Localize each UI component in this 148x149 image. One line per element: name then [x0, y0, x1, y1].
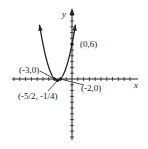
y-axis-label: y [61, 9, 66, 19]
point-label-vertex: (-5/2, -1/4) [18, 91, 58, 101]
point-label-neg2-0: (-2,0) [81, 83, 101, 93]
point-label-neg3-0: (-3,0) [19, 65, 39, 75]
axis-arrows [38, 8, 77, 31]
parabola-graph: x y (0,6) (-3,0) (-2,0) (-5/2, -1/4) [0, 0, 148, 149]
parabola-curve [40, 25, 76, 81]
x-axis-label: x [133, 80, 138, 90]
point-label-0-6: (0,6) [80, 39, 97, 49]
